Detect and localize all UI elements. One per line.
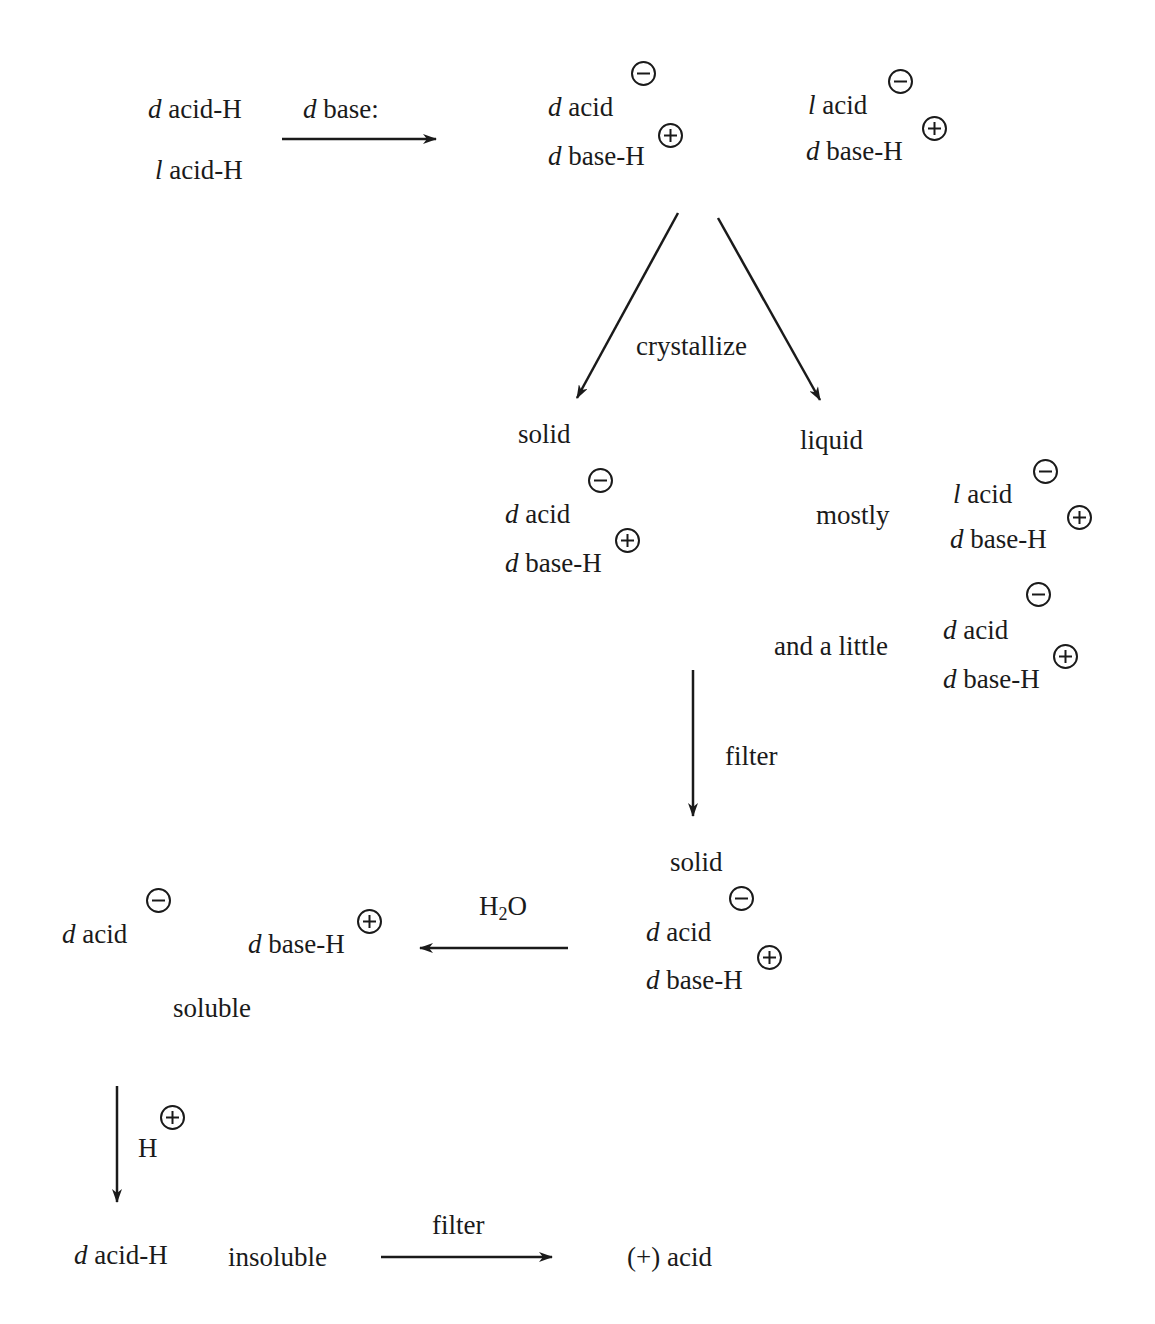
- stereo-prefix: d: [943, 664, 957, 694]
- species-name: base-H: [957, 664, 1040, 694]
- solid2-d-acid: d acid: [646, 919, 711, 946]
- species-name: acid-H: [163, 155, 243, 185]
- species-name: acid: [76, 919, 128, 949]
- product-plus-acid: (+) acid: [627, 1244, 712, 1271]
- species-name: acid: [562, 92, 614, 122]
- water-subscript: 2: [499, 904, 508, 924]
- mostly-label: mostly: [816, 502, 890, 529]
- water-h: H: [479, 891, 499, 921]
- species-name: base-H: [820, 136, 903, 166]
- final-d-acid-h: d acid-H: [74, 1242, 168, 1269]
- stereo-prefix: d: [505, 548, 519, 578]
- species-name: acid-H: [88, 1240, 168, 1270]
- plus-charge-icon: [356, 908, 383, 935]
- stereo-prefix: d: [303, 94, 317, 124]
- arrow-crystallize-liquid: [718, 218, 820, 400]
- minus-charge-icon: [728, 885, 755, 912]
- solid-2-label: solid: [670, 849, 723, 876]
- stereo-prefix: d: [505, 499, 519, 529]
- stereo-prefix: d: [148, 94, 162, 124]
- species-name: base-H: [562, 141, 645, 171]
- minus-charge-icon: [1025, 581, 1052, 608]
- species-name: acid: [816, 90, 868, 120]
- species-name: base-H: [660, 965, 743, 995]
- species-name: acid: [961, 479, 1013, 509]
- plus-charge-icon: [921, 115, 948, 142]
- start-d-acid-h: d acid-H: [148, 96, 242, 123]
- stereo-prefix: d: [943, 615, 957, 645]
- stereo-prefix: l: [155, 155, 163, 185]
- proton-label: H: [138, 1135, 158, 1162]
- crystallize-label: crystallize: [636, 333, 747, 360]
- solid2-d-base-h: d base-H: [646, 967, 743, 994]
- species-name: base-H: [519, 548, 602, 578]
- species-name: acid: [519, 499, 571, 529]
- plus-charge-icon: [159, 1104, 186, 1131]
- salt1-d-base-h: d base-H: [548, 143, 645, 170]
- filter-2-label: filter: [432, 1212, 484, 1239]
- stereo-prefix: d: [646, 917, 660, 947]
- resolution-diagram: d acid-H l acid-H d base: d acid d base-…: [0, 0, 1155, 1324]
- stereo-prefix: d: [950, 524, 964, 554]
- solid-label: solid: [518, 421, 571, 448]
- liquid-label: liquid: [800, 427, 863, 454]
- start-l-acid-h: l acid-H: [155, 157, 243, 184]
- filter-1-label: filter: [725, 743, 777, 770]
- water-o: O: [508, 891, 528, 921]
- solid-d-acid: d acid: [505, 501, 570, 528]
- little-d-acid: d acid: [943, 617, 1008, 644]
- soluble-label: soluble: [173, 995, 251, 1022]
- stereo-prefix: d: [806, 136, 820, 166]
- plus-charge-icon: [614, 527, 641, 554]
- species-name: base:: [317, 94, 379, 124]
- free-d-base-h: d base-H: [248, 931, 345, 958]
- little-d-base-h: d base-H: [943, 666, 1040, 693]
- species-name: base-H: [262, 929, 345, 959]
- stereo-prefix: d: [248, 929, 262, 959]
- stereo-prefix: l: [808, 90, 816, 120]
- stereo-prefix: d: [548, 141, 562, 171]
- minus-charge-icon: [887, 68, 914, 95]
- species-name: acid: [660, 917, 712, 947]
- minus-charge-icon: [145, 887, 172, 914]
- species-name: base-H: [964, 524, 1047, 554]
- species-name: acid: [957, 615, 1009, 645]
- free-d-acid: d acid: [62, 921, 127, 948]
- salt1-d-acid: d acid: [548, 94, 613, 121]
- water-label: H2O: [479, 893, 527, 920]
- stereo-prefix: d: [74, 1240, 88, 1270]
- minus-charge-icon: [630, 60, 657, 87]
- stereo-prefix: d: [62, 919, 76, 949]
- salt2-d-base-h: d base-H: [806, 138, 903, 165]
- plus-charge-icon: [657, 122, 684, 149]
- stereo-prefix: d: [646, 965, 660, 995]
- salt2-l-acid: l acid: [808, 92, 867, 119]
- arrow-crystallize-solid: [577, 213, 678, 398]
- insoluble-label: insoluble: [228, 1244, 327, 1271]
- and-a-little-label: and a little: [774, 633, 888, 660]
- mostly-l-acid: l acid: [953, 481, 1012, 508]
- solid-d-base-h: d base-H: [505, 550, 602, 577]
- mostly-d-base-h: d base-H: [950, 526, 1047, 553]
- minus-charge-icon: [587, 467, 614, 494]
- stereo-prefix: l: [953, 479, 961, 509]
- stereo-prefix: d: [548, 92, 562, 122]
- species-name: acid-H: [162, 94, 242, 124]
- minus-charge-icon: [1032, 458, 1059, 485]
- plus-charge-icon: [1066, 504, 1093, 531]
- plus-charge-icon: [1052, 643, 1079, 670]
- reagent-d-base: d base:: [303, 96, 379, 123]
- plus-charge-icon: [756, 944, 783, 971]
